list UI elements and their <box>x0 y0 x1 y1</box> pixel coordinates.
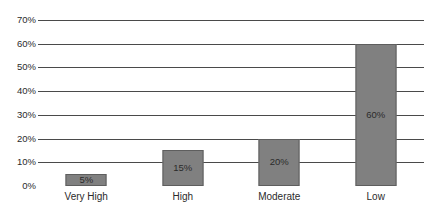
bar-group: 20% Moderate <box>231 0 328 218</box>
x-axis-category-label: Moderate <box>231 192 328 202</box>
y-axis-tick-label: 30% <box>2 110 36 120</box>
y-axis-tick-label: 50% <box>2 63 36 73</box>
y-axis-tick-label: 60% <box>2 39 36 49</box>
x-axis-category-label: High <box>135 192 232 202</box>
y-axis-tick-label: 10% <box>2 158 36 168</box>
bar-group: 60% Low <box>328 0 425 218</box>
bar-value-label: 60% <box>328 110 425 120</box>
x-axis-category-label: Very High <box>38 192 135 202</box>
y-axis-tick-label: 0% <box>2 181 36 191</box>
bar-value-label: 15% <box>135 163 232 173</box>
plot-area: 5% Very High 15% High 20% Moderate 60% L… <box>38 0 424 218</box>
y-axis-tick-label: 70% <box>2 15 36 25</box>
bar-value-label: 5% <box>38 175 135 185</box>
bar-value-label: 20% <box>231 158 328 168</box>
y-axis-tick-label: 20% <box>2 134 36 144</box>
y-axis-tick-label: 40% <box>2 86 36 96</box>
bar-chart: 70% 60% 50% 40% 30% 20% 10% 0% 5% Very H… <box>0 0 426 218</box>
bar-group: 5% Very High <box>38 0 135 218</box>
bar-group: 15% High <box>135 0 232 218</box>
x-axis-category-label: Low <box>328 192 425 202</box>
y-axis: 70% 60% 50% 40% 30% 20% 10% 0% <box>0 0 36 218</box>
